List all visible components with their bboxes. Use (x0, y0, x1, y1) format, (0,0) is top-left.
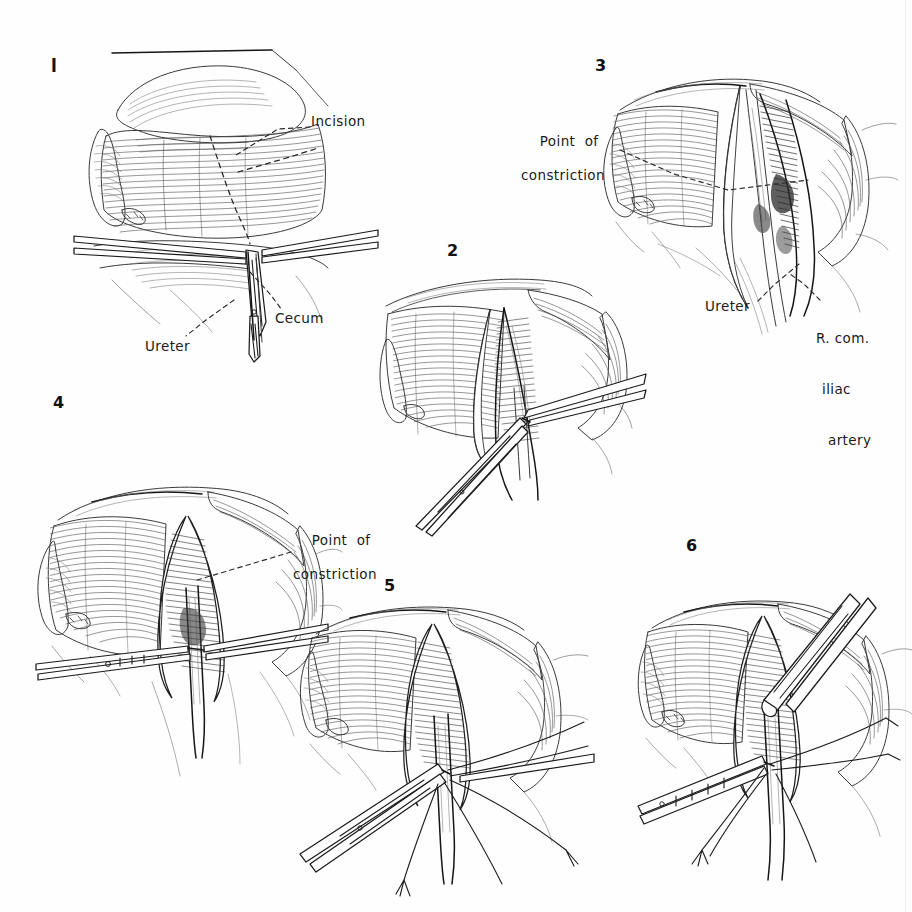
poc4-line-2: constriction (293, 566, 377, 583)
figure-number-4: 4 (53, 395, 65, 411)
figure-number-6: 6 (686, 538, 698, 554)
label-ureter-panel1: Ureter (145, 338, 190, 355)
figure-panel-6 (636, 588, 912, 888)
label-right-common-iliac-artery: R. com. iliac artery (816, 296, 871, 483)
figure-5-drawing (298, 598, 598, 898)
artery-line-3: artery (816, 432, 871, 449)
figure-4-drawing (32, 458, 342, 788)
illustration-plate: l Incision Cecum Ureter (0, 0, 912, 912)
figure-1-drawing (60, 40, 390, 370)
artery-line-2: iliac (816, 381, 871, 398)
figure-panel-5 (298, 598, 598, 898)
label-point-of-constriction-panel3: Point of constriction (521, 116, 605, 218)
poc3-line-1: Point of (540, 133, 599, 149)
label-cecum: Cecum (275, 310, 324, 327)
figure-number-3: 3 (595, 58, 607, 74)
figure-panel-4 (32, 458, 342, 788)
figure-number-1: l (51, 58, 57, 75)
poc3-line-2: constriction (521, 167, 605, 184)
figure-number-2: 2 (447, 243, 459, 259)
label-ureter-panel3: Ureter (705, 298, 750, 315)
poc4-line-1: Point of (312, 532, 371, 548)
figure-panel-1 (60, 40, 390, 370)
artery-line-1: R. com. (816, 330, 871, 347)
figure-number-5: 5 (384, 578, 396, 594)
label-incision: Incision (311, 113, 366, 130)
figure-6-drawing (636, 588, 912, 888)
